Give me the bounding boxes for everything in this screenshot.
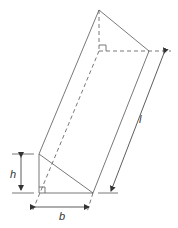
h-label: h — [10, 168, 16, 180]
left-long-edge — [39, 10, 99, 154]
l-dimension-arrow — [111, 53, 164, 191]
right-angle-marker-top — [99, 45, 106, 51]
b-label: b — [59, 210, 65, 222]
l-label: l — [139, 113, 142, 125]
front-triangle — [39, 154, 93, 193]
prism-diagram: h b l — [0, 0, 178, 228]
hidden-long-edge — [32, 51, 99, 212]
extension-right — [87, 193, 93, 212]
back-hypotenuse — [99, 10, 149, 51]
